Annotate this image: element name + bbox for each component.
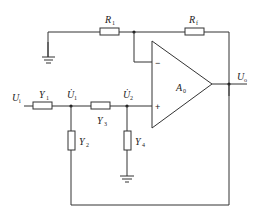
svg-text:2: 2 — [130, 95, 133, 101]
svg-text:1: 1 — [112, 20, 115, 26]
svg-text:R: R — [188, 14, 195, 25]
ground-symbol-y4 — [120, 176, 134, 182]
resistor-r1 — [100, 28, 119, 35]
inverting-sign: − — [155, 58, 160, 68]
label-u1: U̇ 1 — [67, 89, 77, 101]
circuit-diagram: − + A 0 U o U i R 1 R f Y — [0, 0, 259, 219]
ground-symbol-left — [42, 57, 55, 63]
resistor-rf — [185, 28, 204, 35]
svg-text:1: 1 — [74, 95, 77, 101]
label-y2: Y 2 — [79, 136, 89, 148]
label-u2: U̇ 2 — [123, 89, 133, 101]
label-y4: Y 4 — [135, 136, 145, 148]
svg-text:Y: Y — [135, 136, 142, 147]
admittance-y4 — [124, 131, 131, 150]
admittance-y1 — [33, 102, 52, 109]
noninverting-sign: + — [155, 102, 160, 112]
label-r1: R 1 — [104, 14, 115, 26]
svg-text:1: 1 — [46, 95, 49, 101]
svg-text:3: 3 — [104, 121, 107, 127]
svg-text:i: i — [19, 98, 21, 104]
admittance-y2 — [68, 131, 75, 150]
svg-text:Y: Y — [97, 115, 104, 126]
svg-text:R: R — [104, 14, 111, 25]
svg-text:A: A — [175, 82, 183, 93]
label-y3: Y 3 — [97, 115, 107, 127]
svg-text:2: 2 — [86, 142, 89, 148]
svg-text:o: o — [244, 77, 247, 83]
output-label: U o — [237, 71, 247, 83]
svg-text:Y: Y — [79, 136, 86, 147]
svg-text:f: f — [196, 20, 198, 26]
label-y1: Y 1 — [39, 89, 49, 101]
label-rf: R f — [188, 14, 198, 26]
svg-text:4: 4 — [142, 142, 145, 148]
inverting-input-wire — [134, 32, 152, 62]
svg-text:Y: Y — [39, 89, 46, 100]
svg-text:0: 0 — [183, 88, 186, 94]
admittance-y3 — [91, 102, 110, 109]
input-label: U i — [12, 92, 21, 104]
